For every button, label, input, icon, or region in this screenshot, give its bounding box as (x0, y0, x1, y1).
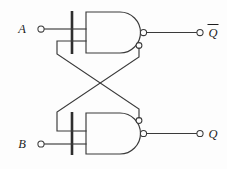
nand-bottom-feedback-tap (136, 118, 142, 124)
output-qbar-terminal[interactable] (197, 29, 203, 35)
nand-bottom-output-bubble (140, 130, 146, 136)
nand-top-feedback-tap (136, 43, 142, 49)
input-a-terminal[interactable] (38, 26, 44, 32)
output-q-label: Q (208, 127, 217, 141)
input-b-label: B (18, 137, 26, 151)
feedback-top-to-bottom (57, 48, 139, 131)
nand-bottom-body (86, 113, 140, 154)
nand-top-body (86, 12, 141, 53)
input-b-terminal[interactable] (38, 141, 44, 147)
output-qbar-label: Q (208, 26, 217, 40)
nand-top-output-bubble (140, 29, 146, 35)
input-a-label: A (17, 22, 26, 36)
latch-schematic: A B Q Q (0, 0, 227, 169)
circuit-diagram: A B Q Q (0, 0, 227, 169)
output-q-terminal[interactable] (197, 130, 203, 136)
